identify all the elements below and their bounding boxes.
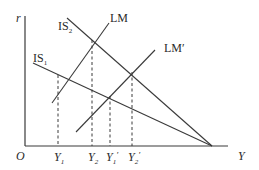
- is1-label: IS1: [33, 51, 48, 67]
- lm-prime-curve: [76, 50, 155, 132]
- tick-y2-prime: Y2′: [128, 150, 141, 166]
- lm-curve: [52, 23, 109, 103]
- is2-curve: [67, 18, 212, 146]
- origin-label: O: [16, 149, 25, 163]
- is1-curve: [33, 63, 212, 146]
- lm-prime-label: LM′: [164, 41, 185, 55]
- tick-y2: Y2: [88, 150, 99, 166]
- lm-label: LM: [110, 11, 128, 25]
- tick-y1: Y1: [54, 150, 64, 166]
- tick-y1-prime: Y1′: [106, 150, 119, 166]
- is-lm-diagram: r O Y IS2 IS1 LM LM′ Y1 Y2 Y1′ Y2′: [0, 0, 259, 170]
- x-axis-label: Y: [238, 149, 246, 163]
- y-axis-label: r: [16, 11, 21, 25]
